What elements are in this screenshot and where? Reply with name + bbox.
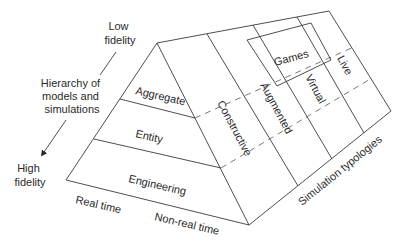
low-fidelity-label: Low fidelity — [104, 20, 136, 46]
simulation-typologies-label: Simulation typologies — [296, 132, 385, 207]
typology-label-augmented: Augmented — [258, 80, 295, 135]
high-fidelity-label: High fidelity — [14, 162, 46, 188]
hierarchy-label: Hierarchy of models and simulations — [41, 77, 103, 115]
typology-label-constructive: Constructive — [215, 98, 254, 158]
real-time-label: Real time — [75, 193, 123, 215]
games-label: Games — [272, 47, 310, 68]
simulation-hierarchy-diagram: Aggregate Entity Engineering Real time N… — [0, 0, 407, 249]
typology-label-live: Live — [335, 53, 355, 76]
right-face — [157, 11, 391, 225]
layer-label-entity: Entity — [135, 127, 165, 145]
layer-label-aggregate: Aggregate — [135, 84, 187, 107]
typology-label-virtual: Virtual — [303, 72, 328, 105]
non-real-time-label: Non-real time — [154, 210, 221, 237]
fidelity-arrow-upper — [100, 52, 116, 75]
fidelity-arrow-lower — [42, 120, 66, 155]
layer-label-engineering: Engineering — [128, 172, 188, 197]
